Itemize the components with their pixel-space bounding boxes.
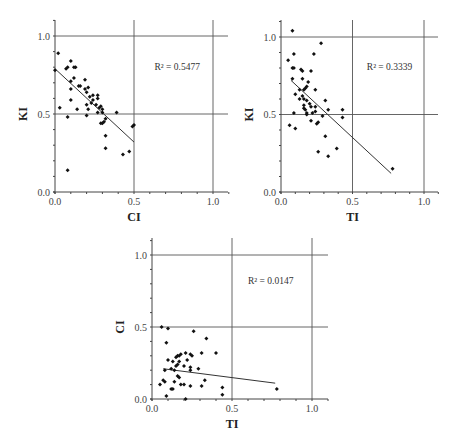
y-tick-label: 0.0 — [135, 394, 148, 405]
x-tick-label: 1.0 — [306, 403, 319, 414]
data-point — [220, 393, 224, 397]
data-point — [166, 358, 170, 362]
data-point — [290, 29, 294, 33]
y-tick-label: 0.5 — [264, 109, 277, 120]
data-point — [83, 78, 87, 82]
x-tick-label: 0.5 — [226, 403, 239, 414]
data-point — [391, 167, 395, 171]
data-point — [69, 98, 73, 102]
data-point — [188, 384, 192, 388]
y-axis-title: CI — [113, 320, 127, 334]
x-axis-title: TI — [346, 210, 359, 224]
data-point — [53, 68, 57, 72]
data-point — [326, 108, 330, 112]
data-point — [127, 149, 131, 153]
trendline — [291, 80, 391, 173]
data-point — [203, 378, 207, 382]
data-point — [323, 99, 327, 103]
x-tick-label: 0.0 — [146, 403, 159, 414]
data-point — [298, 97, 302, 101]
data-point — [96, 93, 100, 97]
data-point — [171, 360, 175, 364]
data-point — [220, 385, 224, 389]
y-tick-label: 0.5 — [38, 109, 51, 120]
x-tick-label: 0.5 — [346, 196, 359, 207]
data-point — [58, 106, 62, 110]
data-point — [158, 383, 162, 387]
data-point — [335, 147, 339, 151]
data-point — [293, 92, 297, 96]
x-tick-label: 0.0 — [275, 196, 288, 207]
data-point — [104, 134, 108, 138]
data-point — [56, 51, 60, 55]
r-squared-label: R² = 0.0147 — [248, 276, 294, 286]
r-squared-label: R² = 0.5477 — [155, 62, 201, 72]
y-tick-label: 1.0 — [135, 250, 148, 261]
data-point — [104, 146, 108, 150]
data-point — [275, 387, 279, 391]
data-point — [300, 77, 304, 81]
r-squared-label: R² = 0.3339 — [367, 62, 413, 72]
data-point — [200, 384, 204, 388]
scatter-figure: 0.00.51.00.00.51.0CIKIR² = 0.54770.00.51… — [0, 0, 457, 448]
trendline — [55, 69, 134, 142]
data-point — [288, 123, 292, 127]
data-point — [290, 77, 294, 81]
data-point — [293, 126, 297, 130]
data-point — [323, 134, 327, 138]
data-point — [184, 351, 188, 355]
y-tick-label: 0.0 — [264, 187, 277, 198]
x-axis-title: TI — [226, 417, 239, 431]
x-tick-label: 1.0 — [418, 196, 431, 207]
data-point — [312, 52, 316, 56]
data-point — [75, 107, 79, 111]
data-point — [185, 358, 189, 362]
data-point — [164, 341, 168, 345]
data-point — [319, 41, 323, 45]
data-point — [286, 58, 290, 62]
data-point — [200, 351, 204, 355]
y-tick-label: 1.0 — [264, 32, 277, 43]
x-axis-title: CI — [127, 210, 141, 224]
data-point — [182, 383, 186, 387]
data-point — [302, 103, 306, 107]
data-point — [313, 88, 317, 92]
data-point — [85, 103, 89, 107]
x-tick-label: 0.0 — [49, 196, 62, 207]
data-point — [72, 76, 76, 80]
y-axis-title: KI — [16, 107, 30, 121]
data-point — [214, 351, 218, 355]
x-tick-label: 0.5 — [128, 196, 141, 207]
data-point — [69, 87, 73, 91]
data-point — [69, 59, 73, 63]
data-point — [204, 337, 208, 341]
y-tick-label: 0.0 — [38, 187, 51, 198]
x-tick-label: 1.0 — [207, 196, 220, 207]
data-point — [66, 168, 70, 172]
chart-ki-vs-ci: 0.00.51.00.00.51.0CIKIR² = 0.5477 — [16, 20, 229, 224]
data-point — [66, 115, 70, 119]
y-tick-label: 0.5 — [135, 322, 148, 333]
data-point — [340, 116, 344, 120]
data-point — [292, 52, 296, 56]
y-tick-label: 1.0 — [38, 31, 51, 42]
data-point — [316, 150, 320, 154]
data-point — [192, 329, 196, 333]
data-point — [182, 364, 186, 368]
data-point — [313, 105, 317, 109]
chart-ki-vs-ti: 0.00.51.00.00.51.0TIKIR² = 0.3339 — [242, 20, 438, 224]
y-axis-title: KI — [242, 107, 256, 121]
data-point — [160, 325, 164, 329]
data-point — [164, 394, 168, 398]
chart-ci-vs-ti: 0.00.51.00.00.51.0TICIR² = 0.0147 — [113, 238, 328, 431]
data-point — [172, 380, 176, 384]
data-point — [86, 107, 90, 111]
trendline — [163, 369, 275, 383]
data-point — [309, 69, 313, 73]
data-point — [309, 119, 313, 123]
data-point — [196, 367, 200, 371]
data-point — [340, 108, 344, 112]
data-point — [298, 88, 302, 92]
data-point — [121, 153, 125, 157]
data-point — [326, 154, 330, 158]
